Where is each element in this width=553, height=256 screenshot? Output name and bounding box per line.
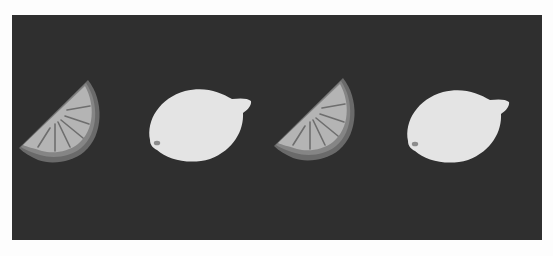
lemon-wedge-2 (274, 78, 355, 160)
lemon-wedge-1 (19, 80, 100, 162)
fruit-illustration (0, 0, 553, 256)
whole-lemon-1 (149, 89, 251, 161)
whole-lemon-2 (407, 90, 509, 162)
